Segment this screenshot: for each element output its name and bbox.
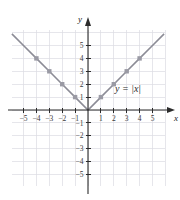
data-point-marker [60, 82, 64, 86]
y-tick-label: 1 [80, 93, 84, 102]
absolute-value-graph-figure: −5−4−3−2−112345−5−4−3−2−112345 y x y = |… [0, 0, 180, 200]
data-point-marker [34, 56, 38, 60]
data-point-marker [99, 95, 103, 99]
y-tick-label: −5 [76, 170, 84, 179]
y-tick-label: 3 [80, 67, 84, 76]
coordinate-plane-svg: −5−4−3−2−112345−5−4−3−2−112345 y x y = |… [0, 0, 180, 200]
y-tick-label: −1 [76, 119, 84, 128]
data-point-marker [137, 56, 141, 60]
data-point-marker [125, 69, 129, 73]
x-tick-label: 5 [151, 114, 155, 123]
y-tick-label: 4 [80, 54, 84, 63]
y-tick-label: −2 [76, 131, 84, 140]
x-tick-label: 3 [125, 114, 129, 123]
x-tick-label: −2 [58, 114, 66, 123]
y-tick-label: 2 [80, 80, 84, 89]
y-tick-label: −3 [76, 144, 84, 153]
y-tick-label: 5 [80, 41, 84, 50]
x-axis-label: x [173, 113, 178, 123]
x-tick-label: 4 [138, 114, 142, 123]
x-tick-label: 1 [99, 114, 103, 123]
y-axis-label: y [77, 14, 82, 24]
equation-annotation: y = |x| [114, 83, 141, 94]
y-tick-label: −4 [76, 157, 84, 166]
x-tick-label: −3 [45, 114, 53, 123]
x-tick-label: −5 [20, 114, 28, 123]
figure-background [0, 0, 180, 200]
data-point-marker [73, 95, 77, 99]
data-point-marker [47, 69, 51, 73]
x-tick-label: 2 [112, 114, 116, 123]
x-tick-label: −4 [32, 114, 40, 123]
